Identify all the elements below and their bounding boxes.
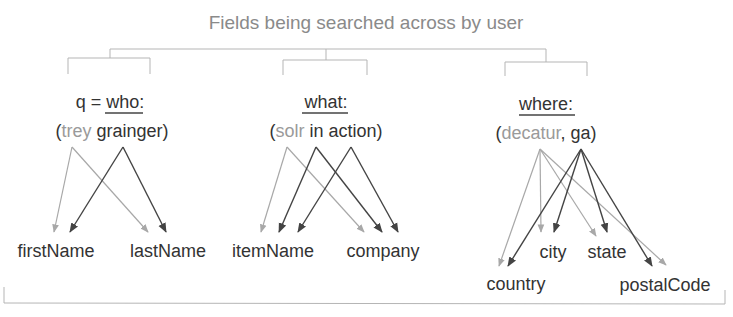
field-city: city (540, 242, 567, 262)
field-postalCode: postalCode (619, 275, 710, 295)
term-in: in (309, 121, 323, 141)
what-bracket (283, 60, 367, 75)
who-label: who: (105, 92, 144, 112)
field-firstName: firstName (17, 241, 94, 261)
who-prefix: q = (76, 92, 107, 112)
term-decatur: decatur (501, 123, 561, 143)
term-trey: trey (61, 121, 91, 141)
term-action: action (329, 121, 377, 141)
field-mapping-diagram: Fields being searched across by user q =… (0, 0, 733, 317)
who-header: q = who: (76, 92, 145, 113)
arrow-solr-to-itemName (261, 147, 287, 232)
field-country: country (486, 274, 545, 294)
where-bracket (505, 62, 587, 76)
field-state: state (587, 242, 626, 262)
where-label: where: (518, 94, 573, 114)
arrow-in-to-itemName (279, 147, 316, 232)
field-itemName: itemName (232, 241, 314, 261)
field-company: company (346, 241, 419, 261)
arrow-decatur-to-city (540, 149, 541, 232)
arrow-trey-to-firstName (54, 147, 72, 232)
arrow-action-to-itemName (298, 147, 351, 232)
svg-text:q = who:: q = who: (76, 92, 145, 112)
where-value: (decatur, ga) (495, 123, 596, 143)
what-value: (solr in action) (269, 121, 382, 141)
diagram-title: Fields being searched across by user (209, 12, 524, 33)
what-label: what: (303, 92, 347, 112)
arrow-grainger-to-firstName (70, 147, 123, 232)
arrow-ga-to-city (554, 149, 581, 232)
who-value: (trey grainger) (55, 121, 168, 141)
where-header: where: (518, 94, 575, 115)
term-solr: solr (275, 121, 304, 141)
field-lastName: lastName (130, 241, 206, 261)
arrow-action-to-company (351, 147, 398, 232)
arrow-trey-to-lastName (72, 147, 148, 232)
arrow-grainger-to-lastName (123, 147, 166, 232)
who-bracket (68, 58, 150, 74)
what-header: what: (302, 92, 348, 113)
bottom-bracket (4, 287, 725, 304)
term-ga: ga (571, 123, 592, 143)
term-grainger: grainger (96, 121, 162, 141)
